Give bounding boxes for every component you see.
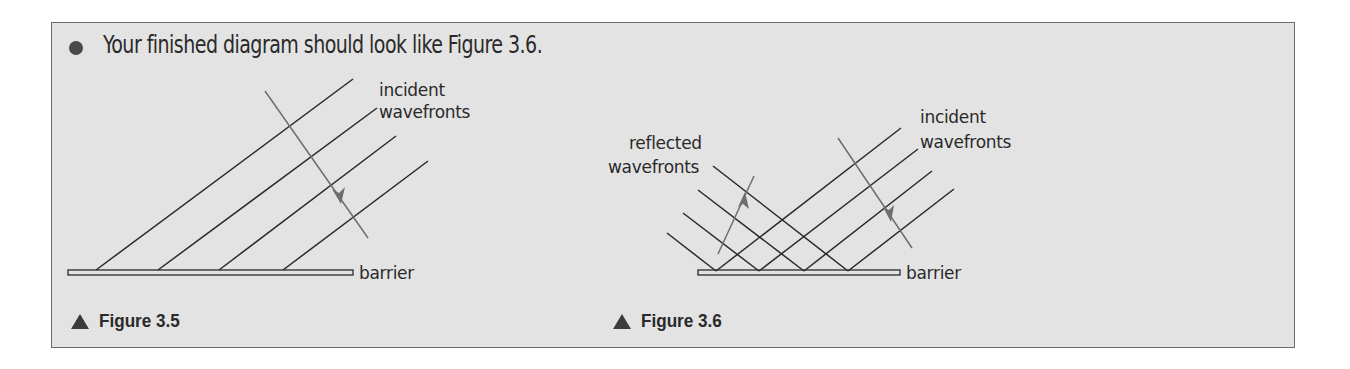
triangle-up-icon xyxy=(613,314,631,329)
barrier-shape xyxy=(698,270,900,275)
figure-3-5-diagram: incident wavefronts barrier xyxy=(68,79,471,283)
incident-direction-line xyxy=(265,91,368,238)
reflected-wavefronts-label: wavefronts xyxy=(608,157,700,177)
reflected-wavefronts xyxy=(667,166,848,271)
wavefronts-label: wavefronts xyxy=(379,102,471,122)
figure-3-6-diagram: reflected wavefronts incident wavefronts… xyxy=(608,107,1012,283)
barrier-shape xyxy=(68,270,353,275)
figure-3-5-caption: Figure 3.5 xyxy=(71,310,189,332)
figure-3-6-caption-text: Figure 3.6 xyxy=(641,310,722,332)
incident-wavefronts-label: wavefronts xyxy=(920,132,1012,152)
activity-panel: Your finished diagram should look like F… xyxy=(51,22,1295,348)
figures-canvas: incident wavefronts barrier xyxy=(52,23,1296,349)
reflected-direction-line xyxy=(718,176,754,254)
barrier-label: barrier xyxy=(359,263,414,283)
barrier-label: barrier xyxy=(906,263,961,283)
incident-label: incident xyxy=(920,107,986,127)
figure-3-5-caption-text: Figure 3.5 xyxy=(99,310,180,332)
incident-direction-line xyxy=(838,138,912,248)
incident-wavefronts xyxy=(716,128,954,271)
incident-label: incident xyxy=(379,80,445,100)
figure-3-6-caption: Figure 3.6 xyxy=(613,310,731,332)
reflected-label: reflected xyxy=(629,133,702,153)
triangle-up-icon xyxy=(71,314,89,329)
